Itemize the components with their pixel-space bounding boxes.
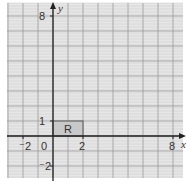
x-tick-label: ⁻2 [19, 140, 31, 152]
grid-area [7, 3, 183, 178]
coordinate-plane: R x y 0 ⁻22818⁻2 [0, 0, 190, 189]
grid-background [7, 3, 183, 178]
y-tick-label: ⁻2 [39, 160, 51, 172]
shape-label: R [64, 123, 72, 135]
x-tick-label: 2 [79, 140, 85, 152]
y-tick-label: 1 [39, 115, 45, 127]
y-tick-label: 8 [39, 10, 45, 22]
y-axis-label: y [57, 2, 63, 14]
x-tick-label: 8 [169, 140, 175, 152]
origin-label: 0 [41, 140, 47, 152]
x-axis-label: x [180, 138, 186, 150]
shapes-layer: R [53, 121, 83, 136]
